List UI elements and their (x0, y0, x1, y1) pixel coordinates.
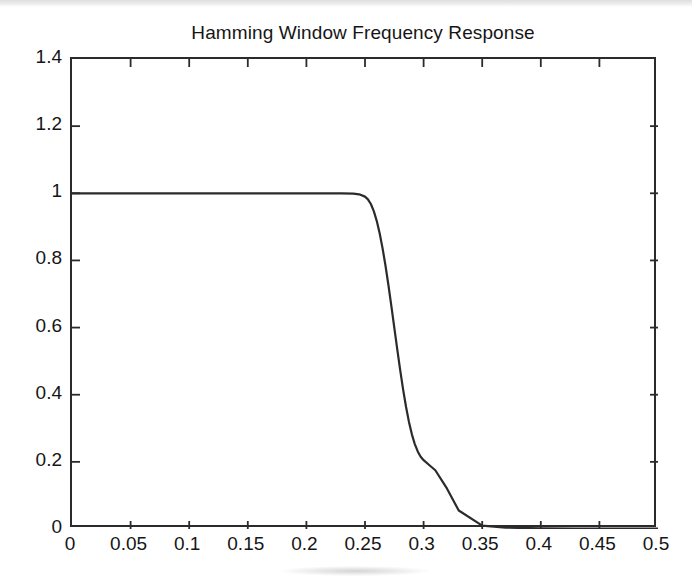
x-tick-label: 0.3 (408, 533, 434, 555)
y-tick-label: 0 (4, 516, 62, 538)
x-tick-label: 0.15 (227, 533, 264, 555)
figure-canvas: Hamming Window Frequency Response 00.20.… (0, 0, 692, 586)
scan-artifact-top (0, 0, 692, 7)
x-tick-label: 0.2 (291, 533, 317, 555)
y-tick-label: 0.2 (4, 449, 62, 471)
x-tick-label: 0.5 (643, 533, 669, 555)
tick-marks (72, 59, 658, 529)
y-tick-label: 0.6 (4, 315, 62, 337)
y-tick-label: 1.4 (4, 46, 62, 68)
scan-artifact-bottom (280, 566, 430, 576)
y-tick-label: 1.2 (4, 113, 62, 135)
x-tick-label: 0.45 (579, 533, 616, 555)
x-tick-label: 0.4 (526, 533, 552, 555)
chart-title: Hamming Window Frequency Response (70, 22, 656, 44)
x-tick-label: 0.25 (345, 533, 382, 555)
x-tick-label: 0 (65, 533, 76, 555)
series-line-magnitude-response (72, 193, 658, 528)
plot-svg (72, 59, 658, 529)
x-tick-label: 0.35 (462, 533, 499, 555)
plot-area (70, 57, 656, 527)
x-tick-label: 0.05 (110, 533, 147, 555)
y-tick-label: 0.8 (4, 247, 62, 269)
x-tick-label: 0.1 (174, 533, 200, 555)
y-tick-label: 0.4 (4, 382, 62, 404)
y-tick-label: 1 (4, 180, 62, 202)
